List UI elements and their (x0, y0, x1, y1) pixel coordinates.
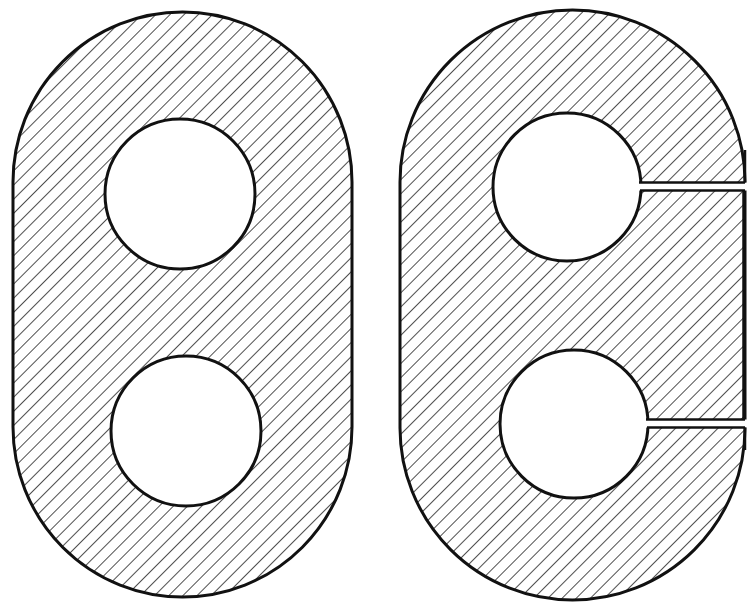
right-plate (400, 10, 748, 600)
hatched-plates-figure (0, 0, 748, 609)
left-plate-outline (13, 12, 352, 597)
left-plate-bottom-hole (111, 356, 261, 506)
left-plate (13, 12, 352, 597)
left-plate-top-hole (105, 119, 255, 269)
diagram-canvas (0, 0, 748, 609)
right-plate-bottom-hole (500, 350, 648, 498)
right-plate-outline (400, 10, 745, 600)
right-plate-top-hole (493, 113, 641, 261)
